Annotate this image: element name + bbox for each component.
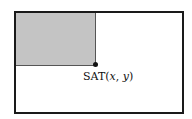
- summed-area-region: [16, 13, 96, 66]
- sat-label: SAT(x, y): [83, 70, 133, 83]
- query-point: [93, 62, 98, 67]
